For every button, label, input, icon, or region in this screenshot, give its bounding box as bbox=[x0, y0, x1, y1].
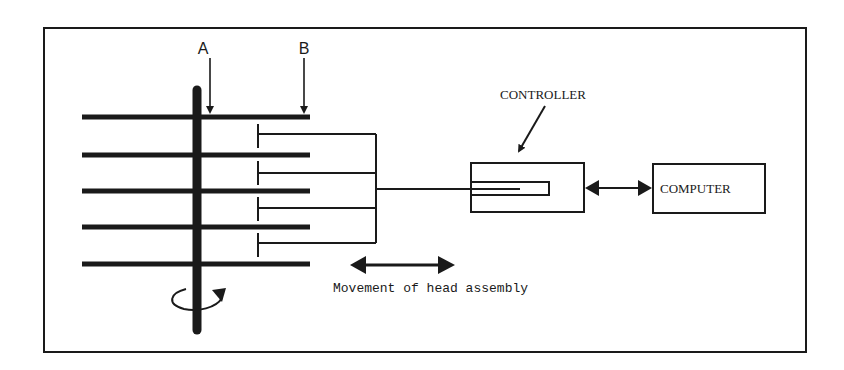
label-a: A bbox=[198, 40, 209, 57]
controller-pointer-arrow bbox=[519, 106, 545, 151]
disk-drive-diagram: A B CONTROLLER COMPUTER Mov bbox=[0, 0, 844, 370]
label-b: B bbox=[299, 40, 310, 57]
computer-label: COMPUTER bbox=[660, 181, 731, 196]
controller-computer-arrow bbox=[585, 180, 652, 196]
movement-label: Movement of head assembly bbox=[333, 281, 528, 296]
controller-box bbox=[471, 163, 584, 212]
controller-label: CONTROLLER bbox=[500, 87, 586, 102]
movement-arrow bbox=[350, 256, 455, 274]
